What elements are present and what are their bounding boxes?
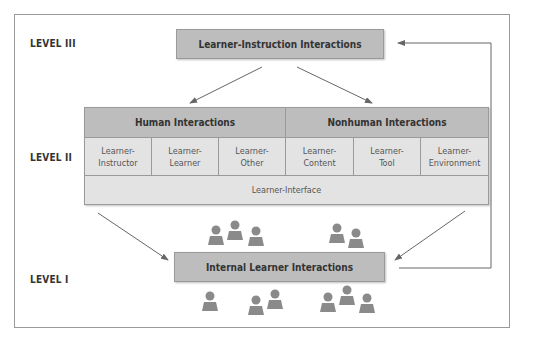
- people-icons: [202, 221, 375, 316]
- person-icon: [339, 286, 355, 306]
- person-icon: [202, 292, 218, 312]
- person-icon: [320, 293, 336, 313]
- person-icon: [248, 227, 264, 247]
- person-icon: [227, 221, 243, 241]
- arrow-left-to-internal: [98, 213, 168, 260]
- arrow-to-human: [190, 67, 262, 103]
- arrow-to-nonhuman: [297, 67, 372, 103]
- arrows-layer: [0, 0, 535, 338]
- person-icon: [208, 226, 224, 246]
- arrow-right-to-internal: [395, 211, 465, 260]
- feedback-arrow: [398, 43, 491, 268]
- person-icon: [329, 224, 345, 244]
- person-icon: [248, 296, 264, 316]
- person-icon: [348, 229, 364, 249]
- person-icon: [267, 290, 283, 310]
- person-icon: [359, 294, 375, 314]
